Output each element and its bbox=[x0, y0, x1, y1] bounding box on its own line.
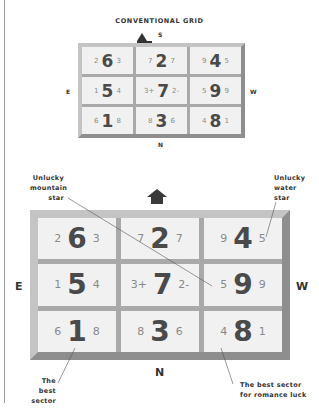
cell-right-number: 2- bbox=[172, 87, 179, 95]
grid-cell: 945 bbox=[204, 218, 282, 259]
annotation-line: mountain bbox=[30, 183, 64, 193]
cell-right-number: 2- bbox=[178, 278, 189, 291]
conventional-grid-title: CONVENTIONAL GRID bbox=[0, 17, 319, 25]
cell-right-number: 3 bbox=[93, 232, 100, 245]
small-direction-bottom: N bbox=[158, 141, 163, 148]
annotation-best-sector: The best sector bbox=[22, 376, 56, 406]
grid-cell: 727 bbox=[121, 218, 199, 259]
large-direction-left: E bbox=[15, 280, 23, 293]
cell-left-number: 1 bbox=[94, 87, 98, 95]
cell-center-number: 6 bbox=[67, 222, 86, 255]
up-arrow-icon bbox=[147, 189, 167, 197]
cell-left-number: 9 bbox=[220, 232, 227, 245]
large-direction-right: W bbox=[296, 280, 308, 293]
cell-center-number: 7 bbox=[153, 268, 172, 301]
cell-right-number: 9 bbox=[259, 278, 266, 291]
cell-right-number: 7 bbox=[176, 232, 183, 245]
small-direction-right: W bbox=[250, 88, 257, 95]
small-direction-left: E bbox=[66, 88, 70, 95]
grid-cell: 599 bbox=[190, 77, 241, 104]
cell-center-number: 4 bbox=[233, 222, 252, 255]
annotation-line: water bbox=[274, 183, 305, 193]
annotation-line: Unlucky bbox=[30, 173, 64, 183]
cell-center-number: 9 bbox=[210, 81, 222, 101]
cell-center-number: 4 bbox=[210, 51, 222, 71]
grid-cell: 836 bbox=[121, 311, 199, 352]
cell-center-number: 1 bbox=[102, 111, 114, 131]
cell-center-number: 1 bbox=[67, 315, 86, 348]
annotation-line: for romance luck bbox=[240, 390, 307, 400]
small-direction-top: S bbox=[158, 31, 162, 38]
annotation-unlucky-water-star: Unlucky water star bbox=[274, 173, 305, 203]
annotation-line: Unlucky bbox=[274, 173, 305, 183]
grid-cell: 3+72- bbox=[121, 264, 199, 305]
cell-left-number: 2 bbox=[94, 57, 98, 65]
cell-left-number: 6 bbox=[54, 325, 61, 338]
cell-right-number: 5 bbox=[224, 57, 228, 65]
cell-left-number: 1 bbox=[54, 278, 61, 291]
grid-cell: 3+72- bbox=[136, 77, 187, 104]
annotation-line: sector bbox=[22, 396, 56, 406]
cell-right-number: 8 bbox=[116, 117, 120, 125]
cell-left-number: 4 bbox=[220, 325, 227, 338]
cell-left-number: 9 bbox=[202, 57, 206, 65]
annotation-romance-sector: The best sector for romance luck bbox=[240, 380, 307, 400]
cell-center-number: 8 bbox=[233, 315, 252, 348]
marker-bar bbox=[137, 41, 152, 43]
cell-center-number: 2 bbox=[156, 51, 168, 71]
cell-right-number: 4 bbox=[93, 278, 100, 291]
cell-left-number: 8 bbox=[148, 117, 152, 125]
cell-right-number: 7 bbox=[170, 57, 174, 65]
margin-line bbox=[4, 0, 5, 403]
cell-right-number: 5 bbox=[259, 232, 266, 245]
up-arrow-stem bbox=[151, 197, 163, 204]
flying-star-grid: 263 727 945 154 3+72- 599 618 836 481 bbox=[30, 210, 290, 360]
cell-left-number: 4 bbox=[202, 117, 206, 125]
annotation-line: star bbox=[274, 193, 305, 203]
cell-center-number: 2 bbox=[150, 222, 169, 255]
cell-left-number: 5 bbox=[202, 87, 206, 95]
cell-left-number: 2 bbox=[54, 232, 61, 245]
cell-center-number: 6 bbox=[102, 51, 114, 71]
cell-center-number: 7 bbox=[157, 81, 169, 101]
grid-cell: 599 bbox=[204, 264, 282, 305]
cell-center-number: 3 bbox=[156, 111, 168, 131]
grid-cell: 481 bbox=[204, 311, 282, 352]
cell-right-number: 4 bbox=[116, 87, 120, 95]
conventional-grid: 263 727 945 154 3+72- 599 618 836 481 bbox=[78, 43, 245, 138]
cell-left-number: 5 bbox=[220, 278, 227, 291]
annotation-line: The best sector bbox=[240, 380, 307, 390]
cell-right-number: 6 bbox=[176, 325, 183, 338]
cell-right-number: 1 bbox=[259, 325, 266, 338]
cell-center-number: 3 bbox=[150, 315, 169, 348]
cell-left-number: 7 bbox=[148, 57, 152, 65]
annotation-line: The best bbox=[22, 376, 56, 396]
grid-cell: 727 bbox=[136, 47, 187, 74]
cell-right-number: 1 bbox=[224, 117, 228, 125]
cell-left-number: 3+ bbox=[144, 87, 154, 95]
cell-right-number: 8 bbox=[93, 325, 100, 338]
cell-left-number: 3+ bbox=[131, 278, 147, 291]
grid-cell: 154 bbox=[38, 264, 116, 305]
triangle-marker-icon bbox=[137, 33, 147, 41]
annotation-line: star bbox=[30, 193, 64, 203]
grid-cell: 836 bbox=[136, 107, 187, 134]
cell-right-number: 6 bbox=[170, 117, 174, 125]
grid-cell: 263 bbox=[38, 218, 116, 259]
grid-cell: 618 bbox=[82, 107, 133, 134]
annotation-unlucky-mountain-star: Unlucky mountain star bbox=[30, 173, 64, 203]
large-direction-bottom: N bbox=[155, 366, 164, 379]
cell-left-number: 7 bbox=[137, 232, 144, 245]
cell-center-number: 8 bbox=[210, 111, 222, 131]
grid-cell: 154 bbox=[82, 77, 133, 104]
cell-right-number: 3 bbox=[116, 57, 120, 65]
cell-center-number: 5 bbox=[102, 81, 114, 101]
cell-center-number: 9 bbox=[233, 268, 252, 301]
grid-cell: 481 bbox=[190, 107, 241, 134]
cell-center-number: 5 bbox=[67, 268, 86, 301]
grid-cell: 263 bbox=[82, 47, 133, 74]
cell-left-number: 8 bbox=[137, 325, 144, 338]
cell-left-number: 6 bbox=[94, 117, 98, 125]
grid-cell: 618 bbox=[38, 311, 116, 352]
grid-cell: 945 bbox=[190, 47, 241, 74]
